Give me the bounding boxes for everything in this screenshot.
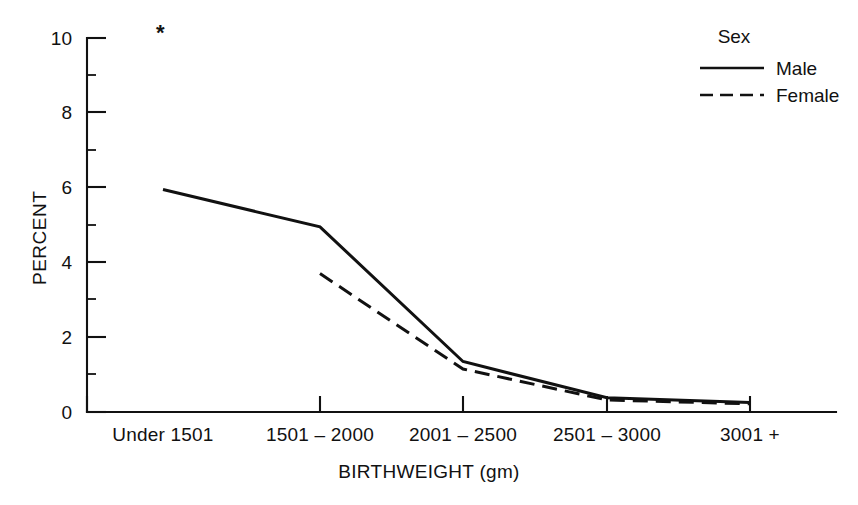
legend-label-male: Male [776, 59, 817, 78]
series-line-female [320, 274, 750, 404]
y-axis-minor-ticks [87, 75, 96, 374]
x-tick-label-2001-2500: 2001 – 2500 [403, 425, 523, 444]
x-tick-label-3001-plus: 3001 + [690, 425, 810, 444]
y-tick-label-8: 8 [42, 103, 72, 122]
y-tick-label-10: 10 [42, 29, 72, 48]
x-tick-label-2501-3000: 2501 – 3000 [547, 425, 667, 444]
series-line-male [163, 190, 750, 403]
chart-figure: 10 8 6 4 2 0 PERCENT Under 1501 1501 – 2… [0, 0, 858, 505]
y-axis-title: PERCENT [30, 191, 49, 285]
legend-label-female: Female [776, 86, 839, 105]
y-tick-label-2: 2 [42, 328, 72, 347]
asterisk-annotation: * [156, 22, 165, 44]
legend-title: Sex [706, 27, 762, 46]
x-axis-title: BIRTHWEIGHT (gm) [0, 462, 858, 481]
x-tick-label-1501-2000: 1501 – 2000 [260, 425, 380, 444]
y-tick-label-0: 0 [42, 403, 72, 422]
x-tick-label-under-1501: Under 1501 [103, 425, 223, 444]
